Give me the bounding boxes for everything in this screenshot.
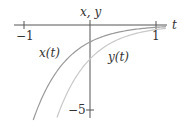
tick-label-t-1: 1 xyxy=(152,29,160,43)
phase-plot: x, y t −1 1 −5 x(t) y(t) xyxy=(0,0,188,132)
y-axis-label: x, y xyxy=(80,5,101,19)
series-label-y: y(t) xyxy=(107,50,129,64)
tick-label-t-minus-1: −1 xyxy=(16,29,34,43)
series-label-x: x(t) xyxy=(39,46,60,60)
tick-label-y-minus-5: −5 xyxy=(68,103,86,117)
curve-x-of-t xyxy=(33,27,166,120)
x-axis-label: t xyxy=(172,18,177,32)
